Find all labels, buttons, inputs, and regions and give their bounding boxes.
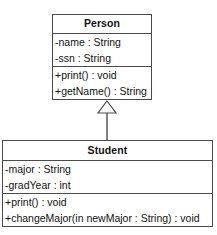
student-attribute-major: -major : String <box>3 161 212 177</box>
class-box-student[interactable]: Student -major : String -gradYear : int … <box>2 140 213 227</box>
person-attribute-name: -name : String <box>53 34 151 50</box>
student-operation-print: +print() : void <box>3 194 212 210</box>
person-attribute-ssn: -ssn : String <box>53 50 151 66</box>
person-operation-print: +print() : void <box>53 67 151 83</box>
person-name-compartment: Person <box>53 15 151 34</box>
student-attributes-compartment: -major : String -gradYear : int <box>3 161 212 194</box>
generalization-connector-student-to-person <box>96 98 118 142</box>
person-attributes-compartment: -name : String -ssn : String <box>53 34 151 67</box>
student-operation-changemajor: +changeMajor(in newMajor : String) : voi… <box>3 210 212 226</box>
class-box-person[interactable]: Person -name : String -ssn : String +pri… <box>52 14 152 100</box>
uml-class-diagram-canvas: Person -name : String -ssn : String +pri… <box>0 0 217 235</box>
student-operations-compartment: +print() : void +changeMajor(in newMajor… <box>3 194 212 226</box>
person-operation-getname: +getName() : String <box>53 83 151 99</box>
person-operations-compartment: +print() : void +getName() : String <box>53 67 151 99</box>
class-name-person: Person <box>53 15 151 33</box>
class-name-student: Student <box>3 141 212 160</box>
student-attribute-gradyear: -gradYear : int <box>3 177 212 193</box>
student-name-compartment: Student <box>3 141 212 161</box>
